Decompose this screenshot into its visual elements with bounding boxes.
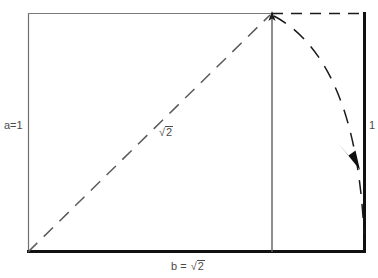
diagonal-hypotenuse — [28, 15, 270, 252]
label-right-side: 1 — [369, 120, 375, 131]
label-bottom-prefix: b = — [171, 260, 190, 272]
rotation-arc — [274, 16, 364, 234]
bottom-radical-group: √2 — [190, 260, 205, 272]
figure-root: a=1 1 b = √2 √2 — [0, 0, 378, 278]
diagonal-radical-group: √2 — [158, 126, 173, 138]
label-diagonal-radicand: 2 — [165, 126, 173, 138]
label-bottom-radicand: 2 — [197, 260, 205, 272]
label-bottom-side: b = √2 — [171, 260, 205, 272]
arc-direction-arrowhead-icon — [339, 144, 361, 171]
label-left-side: a=1 — [4, 120, 23, 131]
geometry-diagram — [0, 0, 378, 278]
label-diagonal: √2 — [158, 126, 173, 138]
